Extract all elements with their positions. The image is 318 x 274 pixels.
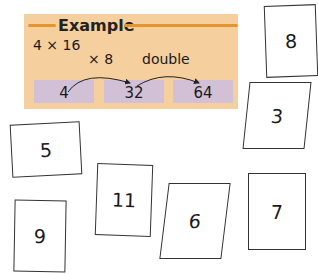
arrow-icons xyxy=(24,14,238,109)
example-panel: Example 4 × 16 × 8 double 4 32 64 xyxy=(24,14,238,109)
number-card[interactable]: 6 xyxy=(159,183,230,259)
number-card[interactable]: 5 xyxy=(10,121,83,178)
card-value: 8 xyxy=(285,30,298,52)
number-card[interactable]: 8 xyxy=(264,4,318,78)
number-card[interactable]: 3 xyxy=(242,82,311,149)
number-card[interactable]: 11 xyxy=(95,163,153,237)
card-value: 6 xyxy=(188,210,203,232)
card-value: 7 xyxy=(271,201,283,223)
number-card[interactable]: 7 xyxy=(248,173,306,250)
card-value: 9 xyxy=(34,225,46,247)
card-value: 3 xyxy=(270,105,284,127)
card-value: 11 xyxy=(112,189,137,212)
card-value: 5 xyxy=(39,138,52,161)
number-card[interactable]: 9 xyxy=(13,200,66,273)
